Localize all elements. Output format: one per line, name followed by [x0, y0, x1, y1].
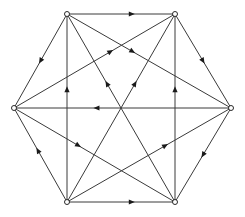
arrowhead-icon — [93, 105, 99, 110]
vertex-E — [65, 200, 70, 205]
vertex-A — [65, 12, 70, 17]
arrowhead-icon — [201, 151, 206, 157]
directed-graph — [0, 0, 245, 217]
arrowhead-icon — [199, 57, 204, 63]
vertex-D — [229, 106, 234, 111]
vertex-C — [12, 106, 17, 111]
arrowhead-icon — [129, 199, 135, 204]
arrowhead-icon — [64, 86, 69, 92]
arrowhead-icon — [172, 86, 177, 92]
arrowhead-icon — [107, 50, 113, 55]
edges-layer — [14, 14, 231, 202]
arrowhead-icon — [74, 142, 80, 147]
edge-E-C — [14, 108, 67, 202]
edge-E-D — [67, 108, 231, 202]
vertex-B — [173, 12, 178, 17]
edge-A-D — [67, 14, 231, 108]
vertex-F — [173, 200, 178, 205]
arrowhead-icon — [129, 11, 135, 16]
